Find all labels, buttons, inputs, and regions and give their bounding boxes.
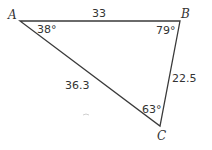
side-bc-label: 22.5 xyxy=(172,72,197,85)
side-ac-label: 36.3 xyxy=(65,79,90,92)
side-ab-label: 33 xyxy=(92,7,106,20)
vertex-c-label: C xyxy=(157,129,166,143)
angle-c-label: 63° xyxy=(142,103,162,116)
triangle-diagram: A B C 38° 79° 63° 33 22.5 36.3 xyxy=(0,0,212,150)
angle-a-label: 38° xyxy=(37,23,57,36)
angle-b-label: 79° xyxy=(156,24,176,37)
faint-mark xyxy=(83,114,89,115)
vertex-a-label: A xyxy=(7,8,17,22)
vertex-b-label: B xyxy=(180,7,190,21)
